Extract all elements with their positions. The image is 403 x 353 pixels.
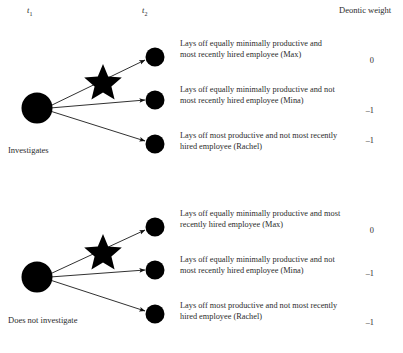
- outcome-description-rachel-top: Lays off most productive and not most re…: [180, 130, 352, 152]
- deontic-weight-value-rachel-top: –1: [352, 136, 374, 145]
- branch-label-does-not-investigate: Does not investigate: [8, 315, 77, 325]
- time-header-t1: t1: [27, 5, 32, 17]
- outcome-description-max-top: Lays off equally minimally productive an…: [180, 38, 340, 60]
- time-header-t2-subscript: 2: [144, 11, 147, 17]
- time-header-t1-subscript: 1: [29, 11, 32, 17]
- star-icon-preferred-outcome-bottom: [84, 234, 122, 270]
- deontic-weight-value-rachel-bottom: –1: [352, 318, 374, 327]
- edge-to-outcome-max-bottom: [50, 230, 145, 274]
- deontic-weight-value-max-top: 0: [352, 56, 374, 65]
- outcome-description-mina-top: Lays off equally minimally productive an…: [180, 84, 340, 106]
- source-node-does-not-investigate: [22, 262, 53, 293]
- edge-to-outcome-max: [50, 60, 145, 106]
- edge-to-outcome-mina: [50, 100, 145, 108]
- edge-to-outcome-rachel-bottom: [50, 280, 145, 311]
- deontic-weight-value-mina-top: –1: [352, 106, 374, 115]
- branch-group-investigates: [22, 48, 165, 154]
- outcome-node-max-top: [146, 48, 165, 67]
- outcome-description-rachel-bottom: Lays off most productive and not most re…: [180, 300, 340, 322]
- outcome-node-max-bottom: [146, 218, 165, 237]
- star-icon-preferred-outcome-top: [84, 64, 122, 100]
- edge-to-outcome-rachel: [50, 111, 145, 141]
- outcome-node-rachel-bottom: [146, 305, 165, 324]
- outcome-node-mina-top: [146, 91, 165, 110]
- branch-group-does-not-investigate: [22, 218, 165, 324]
- outcome-description-mina-bottom: Lays off equally minimally productive an…: [180, 254, 352, 276]
- deontic-weight-value-max-bottom: 0: [352, 226, 374, 235]
- decision-tree-figure: t1 t2 Deontic weight: [0, 0, 403, 353]
- deontic-weight-value-mina-bottom: –1: [352, 269, 374, 278]
- source-node-investigates: [22, 93, 53, 124]
- outcome-node-mina-bottom: [146, 261, 165, 280]
- deontic-weight-header: Deontic weight: [339, 5, 391, 15]
- edge-to-outcome-mina-bottom: [50, 270, 145, 277]
- branch-label-investigates: Investigates: [8, 145, 49, 155]
- outcome-node-rachel-top: [146, 135, 165, 154]
- outcome-description-max-bottom: Lays off equally minimally productive an…: [180, 208, 352, 230]
- time-header-t2: t2: [142, 5, 147, 17]
